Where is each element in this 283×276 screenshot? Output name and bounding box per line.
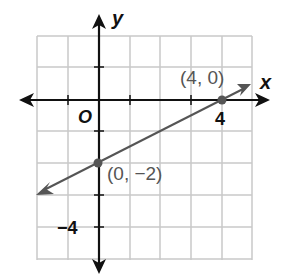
x-axis-label: x bbox=[259, 71, 272, 93]
line-left-arrow-icon bbox=[36, 182, 54, 195]
point-label-4-0: (4, 0) bbox=[180, 67, 224, 88]
y-axis bbox=[92, 14, 106, 274]
origin-label: O bbox=[78, 107, 92, 127]
y-tick-label-neg4: −4 bbox=[57, 218, 78, 238]
coordinate-plane: y x O 4 −4 (4, 0) (0, −2) bbox=[0, 0, 283, 276]
point-4-0 bbox=[218, 96, 227, 105]
point-0-neg2 bbox=[94, 159, 103, 168]
point-label-0-neg2: (0, −2) bbox=[107, 163, 162, 184]
y-axis-label: y bbox=[111, 7, 124, 29]
x-tick-label-4: 4 bbox=[215, 109, 225, 129]
